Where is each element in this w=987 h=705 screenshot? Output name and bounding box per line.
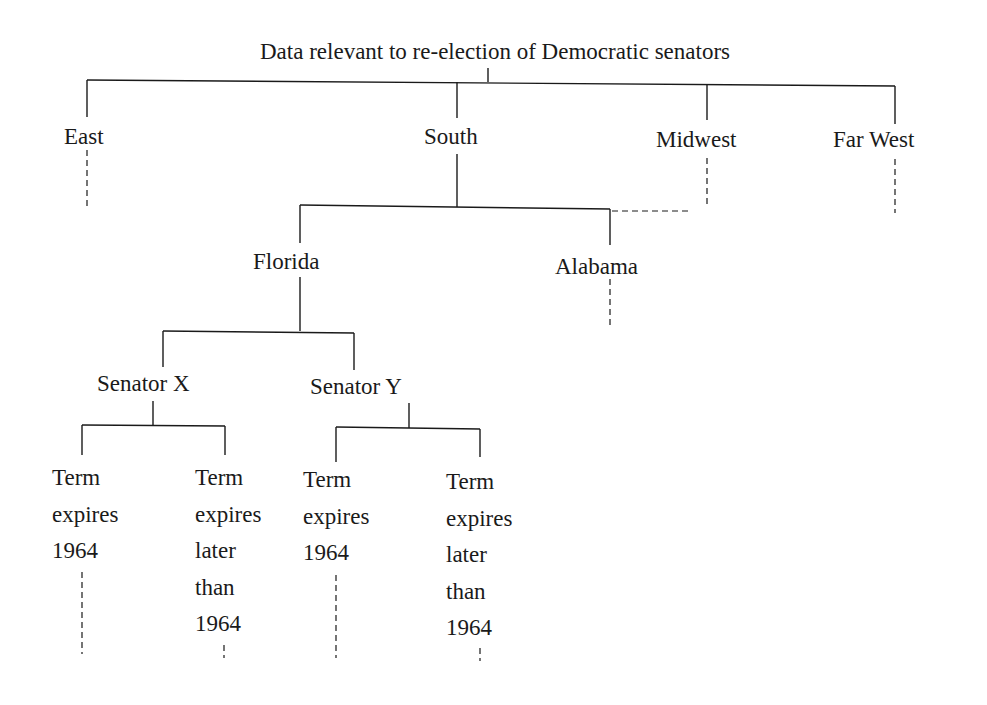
- leaf-node-senator-y-1964: Term expires 1964: [303, 462, 369, 572]
- region-node-south: South: [424, 121, 478, 153]
- root-node-label: Data relevant to re-election of Democrat…: [260, 36, 730, 68]
- region-node-east: East: [64, 121, 104, 153]
- senator-node-y: Senator Y: [310, 371, 402, 403]
- region-node-far-west: Far West: [833, 124, 914, 156]
- leaf-node-senator-y-later: Term expires later than 1964: [446, 464, 512, 647]
- state-node-alabama: Alabama: [555, 251, 638, 283]
- leaf-node-senator-x-1964: Term expires 1964: [52, 460, 118, 570]
- region-node-midwest: Midwest: [656, 124, 737, 156]
- leaf-node-senator-x-later: Term expires later than 1964: [195, 460, 261, 643]
- senator-node-x: Senator X: [97, 368, 190, 400]
- state-node-florida: Florida: [253, 246, 319, 278]
